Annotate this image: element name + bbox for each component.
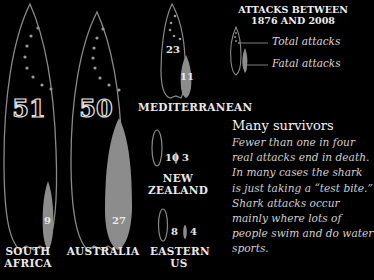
note-body: Fewer than one in four real attacks end … xyxy=(232,135,374,257)
south-africa-fatal-value: 9 xyxy=(44,215,51,226)
australia-label: AUSTRALIA xyxy=(66,245,140,257)
australia-fatal-board xyxy=(105,118,132,250)
mediterranean-label: MEDITERRANEAN xyxy=(138,101,238,113)
south-africa-dots xyxy=(23,26,52,90)
eastern-us-total-value: 8 xyxy=(171,226,178,237)
new-zealand-fatal-value: 3 xyxy=(182,152,189,163)
new-zealand-total-board xyxy=(152,130,162,166)
legend-fatal-label: Fatal attacks xyxy=(272,57,341,69)
legend-total-board xyxy=(231,27,241,75)
legend-title: ATTACKS BETWEEN 1876 AND 2008 xyxy=(228,4,358,26)
australia-total-value: 50 xyxy=(79,94,112,123)
mediterranean-fatal-value: 11 xyxy=(180,71,194,82)
australia-fatal-value: 27 xyxy=(112,215,126,226)
legend-total-label: Total attacks xyxy=(272,35,340,47)
mediterranean-total-value: 23 xyxy=(166,44,180,55)
eastern-us-total-board xyxy=(159,209,168,241)
south-africa-total-value: 51 xyxy=(12,94,45,123)
mediterranean-dots xyxy=(169,15,182,41)
note-title: Many survivors xyxy=(232,118,334,133)
eastern-us-fatal-value: 4 xyxy=(190,226,197,237)
south-africa-label: SOUTH AFRICA xyxy=(0,245,56,269)
legend-fatal-board xyxy=(242,48,247,73)
new-zealand-total-value: 10 xyxy=(165,152,179,163)
eastern-us-label: EASTERN US xyxy=(150,245,208,269)
new-zealand-label: NEW ZEALAND xyxy=(146,172,210,196)
eastern-us-fatal-board xyxy=(183,225,187,239)
